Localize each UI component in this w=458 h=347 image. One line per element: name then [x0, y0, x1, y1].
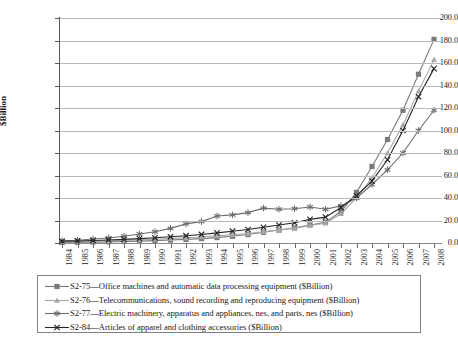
x-axis-tick-label: 1991	[175, 249, 183, 265]
data-point-square	[54, 284, 59, 289]
x-axis-tick-label: 1988	[128, 249, 136, 265]
gridline	[60, 221, 442, 222]
chart-figure: $Billion 0.020.040.060.080.0100.0120.014…	[0, 0, 458, 347]
x-axis-tick-mark	[264, 243, 265, 248]
x-axis-tick-label: 2003	[361, 249, 369, 265]
x-axis-tick-label: 2004	[376, 249, 384, 265]
x-axis-tick-mark	[357, 243, 358, 248]
x-axis-tick-label: 1987	[113, 249, 121, 265]
x-axis-tick-label: 1998	[283, 249, 291, 265]
gridlines	[60, 18, 442, 243]
gridline	[60, 198, 442, 199]
x-axis-tick-label: 1997	[268, 249, 276, 265]
gridline	[60, 86, 442, 87]
x-axis-tick-mark	[295, 243, 296, 248]
legend: S2-75—Office machines and automatic data…	[37, 275, 421, 333]
x-axis-tick-mark	[233, 243, 234, 248]
legend-item-label: S2-76—Telecommunications, sound recordin…	[70, 296, 359, 305]
gridline	[60, 153, 442, 154]
legend-item-label: S2-75—Office machines and automatic data…	[70, 282, 332, 291]
y-axis-title: $Billion	[0, 96, 8, 126]
x-axis-tick-label: 2005	[392, 249, 400, 265]
x-axis-tick-mark	[388, 243, 389, 248]
gridline	[60, 131, 442, 132]
x-axis-tick-mark	[140, 243, 141, 248]
x-axis-tick-label: 1984	[66, 249, 74, 265]
x-axis-tick-mark	[403, 243, 404, 248]
x-axis-tick-label: 1985	[82, 249, 90, 265]
x-axis-tick-mark	[171, 243, 172, 248]
x-axis-tick-mark	[341, 243, 342, 248]
x-axis-tick-label: 2000	[314, 249, 322, 265]
x-axis-tick-mark	[310, 243, 311, 248]
x-axis-tick-label: 1999	[299, 249, 307, 265]
x-axis-tick-mark	[155, 243, 156, 248]
x-axis-tick-label: 1994	[221, 249, 229, 265]
x-axis-tick-mark	[124, 243, 125, 248]
x-axis-tick-mark	[326, 243, 327, 248]
gridline	[60, 41, 442, 42]
x-axis-tick-mark	[186, 243, 187, 248]
x-axis-tick-label: 2001	[330, 249, 338, 265]
gridline	[60, 18, 442, 19]
x-axis-tick-mark	[109, 243, 110, 248]
x-axis-tick-label: 2002	[345, 249, 353, 265]
legend-item: S2-75—Office machines and automatic data…	[44, 280, 414, 293]
x-axis-tick-mark	[202, 243, 203, 248]
legend-item: S2-76—Telecommunications, sound recordin…	[44, 294, 414, 307]
x-axis-tick-label: 1993	[206, 249, 214, 265]
x-axis-tick-label: 1986	[97, 249, 105, 265]
legend-marker-triangle-icon	[44, 295, 70, 306]
x-axis-tick-mark	[93, 243, 94, 248]
x-axis-tick-mark	[248, 243, 249, 248]
x-axis-tick-label: 1995	[237, 249, 245, 265]
plot-area	[60, 18, 442, 243]
x-axis-tick-label: 1990	[159, 249, 167, 265]
gridline	[60, 176, 442, 177]
x-axis-tick-mark	[78, 243, 79, 248]
x-axis-tick-mark	[434, 243, 435, 248]
gridline	[60, 243, 442, 244]
legend-marker-x-icon	[44, 322, 70, 333]
legend-item: S2-84—Articles of apparel and clothing a…	[44, 321, 414, 334]
x-axis-tick-label: 2007	[423, 249, 431, 265]
gridline	[60, 63, 442, 64]
x-axis-tick-mark	[279, 243, 280, 248]
x-axis-tick-label: 1989	[144, 249, 152, 265]
legend-item-label: S2-77—Electric machinery, apparatus and …	[70, 309, 353, 318]
x-axis-tick-label: 1992	[190, 249, 198, 265]
x-axis-tick-mark	[372, 243, 373, 248]
x-axis-tick-label: 2008	[438, 249, 446, 265]
x-axis-tick-label: 2006	[407, 249, 415, 265]
x-axis-tick-mark	[62, 243, 63, 248]
legend-marker-square-icon	[44, 281, 70, 292]
legend-marker-asterisk-icon	[44, 308, 70, 319]
x-axis-tick-label: 1996	[252, 249, 260, 265]
gridline	[60, 108, 442, 109]
legend-item: S2-77—Electric machinery, apparatus and …	[44, 307, 414, 320]
x-axis-tick-mark	[419, 243, 420, 248]
legend-item-label: S2-84—Articles of apparel and clothing a…	[70, 323, 282, 332]
x-axis-tick-mark	[217, 243, 218, 248]
